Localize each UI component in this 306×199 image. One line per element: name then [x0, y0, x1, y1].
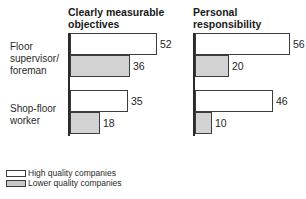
category-label-line: Shop-floor	[10, 103, 56, 115]
bar-row: 52	[70, 33, 200, 55]
chart-title-line: Clearly measurable	[68, 6, 164, 18]
bar-high-quality	[70, 90, 128, 112]
bar-high-quality	[70, 33, 157, 55]
legend-item-high-quality: High quality companies	[6, 168, 122, 178]
bar-lower-quality	[195, 112, 212, 134]
bar-row: 10	[195, 112, 306, 134]
bar-row: 20	[195, 55, 306, 77]
legend-label: Lower quality companies	[28, 178, 122, 188]
plot-personal-responsibility: 56204610	[193, 33, 306, 136]
bar-value-label: 46	[276, 95, 288, 107]
chart-title-line: objectives	[68, 18, 164, 30]
bar-high-quality	[195, 33, 290, 55]
bar-value-label: 36	[133, 60, 145, 72]
plot-clearly-measurable-objectives: 52363518	[68, 33, 200, 136]
dual-bar-chart-figure: Clearly measurable objectives Personal r…	[0, 0, 306, 199]
bar-group: 5620	[195, 33, 306, 77]
category-label-line: Floor	[10, 41, 59, 53]
bar-group: 4610	[195, 90, 306, 134]
chart-title-personal-responsibility: Personal responsibility	[193, 6, 261, 30]
bar-value-label: 56	[293, 38, 305, 50]
bar-value-label: 52	[160, 38, 172, 50]
category-label-shop-floor-worker: Shop-floor worker	[10, 103, 56, 127]
bar-row: 46	[195, 90, 306, 112]
bar-row: 18	[70, 112, 200, 134]
chart-title-clearly-measurable-objectives: Clearly measurable objectives	[68, 6, 164, 30]
bar-lower-quality	[70, 55, 130, 77]
bar-row: 35	[70, 90, 200, 112]
bar-value-label: 35	[131, 95, 143, 107]
category-label-line: foreman	[10, 65, 59, 77]
legend-swatch-lower-quality	[6, 180, 26, 187]
category-label-line: supervisor/	[10, 53, 59, 65]
bar-value-label: 20	[232, 60, 244, 72]
legend-label: High quality companies	[28, 168, 116, 178]
chart-title-line: Personal	[193, 6, 261, 18]
bar-lower-quality	[70, 112, 100, 134]
bar-group: 5236	[70, 33, 200, 77]
legend-swatch-high-quality	[6, 170, 26, 177]
legend: High quality companies Lower quality com…	[6, 168, 122, 188]
bar-lower-quality	[195, 55, 229, 77]
bar-row: 56	[195, 33, 306, 55]
bar-value-label: 18	[103, 117, 115, 129]
legend-item-lower-quality: Lower quality companies	[6, 178, 122, 188]
bar-high-quality	[195, 90, 273, 112]
category-label-floor-supervisor-foreman: Floor supervisor/ foreman	[10, 41, 59, 77]
chart-title-line: responsibility	[193, 18, 261, 30]
category-label-line: worker	[10, 115, 56, 127]
bar-row: 36	[70, 55, 200, 77]
bar-group: 3518	[70, 90, 200, 134]
bar-value-label: 10	[215, 117, 227, 129]
